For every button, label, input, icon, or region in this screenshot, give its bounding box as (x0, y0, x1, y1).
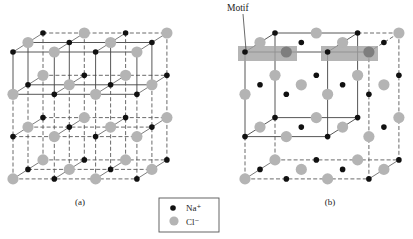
na-ion (366, 92, 372, 98)
na-ion (123, 30, 129, 36)
motif-label: Motif (227, 3, 249, 13)
cl-ion (37, 70, 48, 81)
na-ion (164, 157, 170, 163)
cl-ion (22, 122, 33, 133)
na-ion (284, 176, 290, 182)
na-ion (40, 115, 46, 121)
cl-ion (311, 27, 322, 38)
cl-ion (296, 164, 307, 175)
na-ion (93, 134, 99, 140)
cl-ion (239, 173, 250, 184)
na-ion (381, 40, 387, 46)
cl-ion (269, 154, 280, 165)
cl-ion (49, 131, 60, 142)
cl-ion (146, 164, 157, 175)
cl-ion (363, 131, 374, 142)
na-ion (108, 167, 114, 173)
cl-ion (37, 154, 48, 165)
cl-ion (105, 37, 116, 48)
na-ion (299, 40, 305, 46)
cl-ion (105, 122, 116, 133)
na-ion (134, 92, 140, 98)
cl-ion (79, 112, 90, 123)
cl-ion (393, 112, 404, 123)
na-ion-legend-dot (170, 205, 176, 211)
na-ion (242, 49, 248, 55)
na-ion (325, 49, 331, 55)
na-ion (314, 157, 320, 163)
na-ion (272, 30, 278, 36)
na-ion (396, 157, 402, 163)
na-ion (108, 82, 114, 88)
cl-ion (281, 131, 292, 142)
nacl-crystal-structure-figure: (a) Motif (b) Na⁺ Cl⁻ (0, 0, 413, 239)
na-ion (134, 176, 140, 182)
na-ion (355, 30, 361, 36)
na-ion (52, 176, 58, 182)
cl-ion-legend-label: Cl⁻ (186, 217, 200, 227)
cl-ion (337, 122, 348, 133)
cl-ion-legend-dot (169, 216, 178, 225)
cl-ion (378, 164, 389, 175)
cl-ion (131, 46, 142, 57)
cl-ion (64, 79, 75, 90)
cl-ion (352, 70, 363, 81)
na-ion-legend-label: Na⁺ (186, 203, 201, 213)
na-ion (340, 82, 346, 88)
na-ion (10, 134, 16, 140)
cl-ion (90, 89, 101, 100)
na-ion (123, 115, 129, 121)
cl-ion (239, 89, 250, 100)
na-ion (52, 92, 58, 98)
cl-ion (363, 46, 374, 57)
cl-ion (322, 173, 333, 184)
cl-ion (22, 37, 33, 48)
figure-background (0, 0, 413, 239)
cl-ion (120, 154, 131, 165)
na-ion (25, 167, 31, 173)
cl-ion (352, 154, 363, 165)
na-ion (67, 124, 73, 130)
cl-ion (64, 164, 75, 175)
na-ion (257, 82, 263, 88)
na-ion (257, 167, 263, 173)
na-ion (272, 115, 278, 121)
cl-ion (254, 122, 265, 133)
na-ion (355, 115, 361, 121)
na-ion (10, 49, 16, 55)
cl-ion (393, 27, 404, 38)
cl-ion (269, 70, 280, 81)
cl-ion (378, 79, 389, 90)
cl-ion (120, 70, 131, 81)
cl-ion (161, 27, 172, 38)
cl-ion (90, 173, 101, 184)
na-ion (242, 134, 248, 140)
cl-ion (7, 173, 18, 184)
na-ion (381, 124, 387, 130)
cl-ion (296, 79, 307, 90)
panel-b-caption: (b) (325, 197, 336, 207)
na-ion (164, 73, 170, 79)
cl-ion (49, 46, 60, 57)
na-ion (25, 82, 31, 88)
na-ion (325, 134, 331, 140)
na-ion (93, 49, 99, 55)
na-ion (67, 40, 73, 46)
na-ion (284, 92, 290, 98)
na-ion (340, 167, 346, 173)
cl-ion (7, 89, 18, 100)
na-ion (299, 124, 305, 130)
na-ion (366, 176, 372, 182)
cl-ion (254, 37, 265, 48)
cl-ion (322, 89, 333, 100)
cl-ion (79, 27, 90, 38)
cl-ion (337, 37, 348, 48)
cl-ion (131, 131, 142, 142)
na-ion (82, 73, 88, 79)
na-ion (314, 73, 320, 79)
cl-ion (161, 112, 172, 123)
na-ion (149, 40, 155, 46)
na-ion (40, 30, 46, 36)
cl-ion (146, 79, 157, 90)
na-ion (149, 124, 155, 130)
